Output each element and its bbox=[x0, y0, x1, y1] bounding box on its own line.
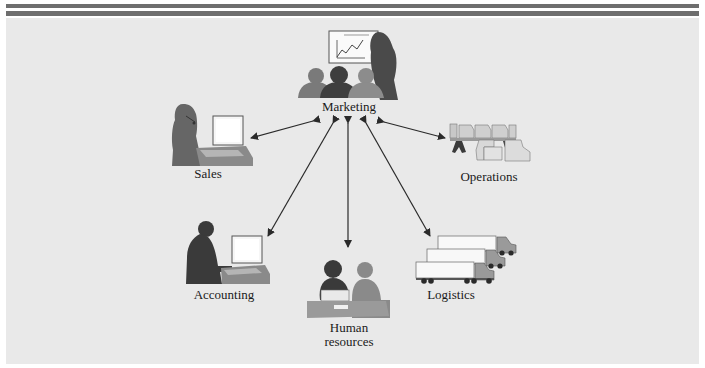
operations-label: Operations bbox=[460, 169, 517, 184]
edge-marketing-logistics bbox=[366, 123, 430, 236]
assembly-line-workers-icon bbox=[450, 124, 530, 161]
headset-computer-operator-icon bbox=[172, 104, 253, 166]
marketing-label: Marketing bbox=[322, 99, 377, 114]
accounting-label: Accounting bbox=[194, 287, 255, 302]
presentation-audience-icon bbox=[298, 31, 398, 100]
edge-marketing-operations bbox=[384, 122, 445, 138]
interview-meeting-icon bbox=[307, 260, 390, 318]
diagram-canvas: Marketing Sales Operations Accounting bbox=[0, 0, 705, 368]
human-resources-label-line2: resources bbox=[324, 334, 373, 349]
trucks-fleet-icon bbox=[416, 236, 516, 284]
edge-marketing-sales bbox=[251, 121, 313, 138]
computer-worker-icon bbox=[186, 221, 270, 284]
sales-label: Sales bbox=[194, 166, 221, 181]
logistics-label: Logistics bbox=[427, 287, 475, 302]
human-resources-label-line1: Human bbox=[330, 320, 369, 335]
edge-marketing-accounting bbox=[268, 123, 333, 236]
